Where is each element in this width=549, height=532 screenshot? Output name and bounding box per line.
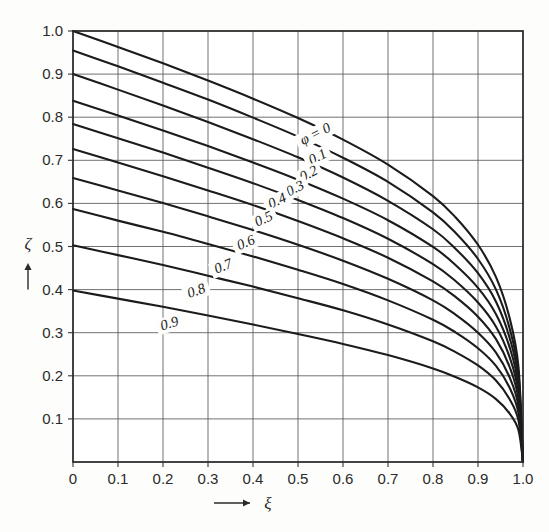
xtick-label-1.0: 1.0 xyxy=(513,470,534,487)
y-axis-arrow-head xyxy=(24,263,31,270)
chart-canvas: φ = 00.10.20.30.40.50.60.70.80.9 00.10.2… xyxy=(0,0,549,532)
y-axis-symbol: ζ xyxy=(25,234,33,253)
ytick-label-0.2: 0.2 xyxy=(42,367,63,384)
ytick-label-0.9: 0.9 xyxy=(42,65,63,82)
ytick-label-1.0: 1.0 xyxy=(42,22,63,39)
xtick-label-0: 0 xyxy=(69,470,77,487)
xtick-label-0.1: 0.1 xyxy=(108,470,129,487)
xtick-label-0.6: 0.6 xyxy=(333,470,354,487)
ytick-label-0.7: 0.7 xyxy=(42,151,63,168)
ytick-label-0.8: 0.8 xyxy=(42,108,63,125)
x-axis-arrow-head xyxy=(243,499,250,506)
ytick-label-0.5: 0.5 xyxy=(42,238,63,255)
ytick-label-0.6: 0.6 xyxy=(42,194,63,211)
xtick-label-0.5: 0.5 xyxy=(288,470,309,487)
ytick-label-0.4: 0.4 xyxy=(42,281,63,298)
ytick-label-0.1: 0.1 xyxy=(42,410,63,427)
xtick-label-0.2: 0.2 xyxy=(153,470,174,487)
xtick-label-0.8: 0.8 xyxy=(423,470,444,487)
chart-figure: φ = 00.10.20.30.40.50.60.70.80.9 00.10.2… xyxy=(0,0,549,532)
xtick-label-0.7: 0.7 xyxy=(378,470,399,487)
xtick-label-0.4: 0.4 xyxy=(243,470,264,487)
xtick-label-0.9: 0.9 xyxy=(468,470,489,487)
ytick-label-0.3: 0.3 xyxy=(42,324,63,341)
xtick-label-0.3: 0.3 xyxy=(198,470,219,487)
grid-layer xyxy=(73,31,523,462)
x-axis-symbol: ξ xyxy=(264,494,272,513)
